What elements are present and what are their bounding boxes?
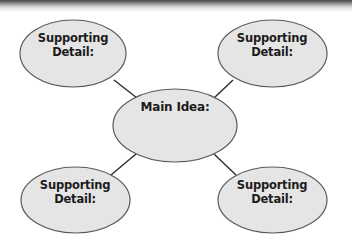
connector-top-right bbox=[214, 80, 233, 98]
connector-top-left bbox=[114, 80, 137, 98]
detail-label-line2: Detail: bbox=[25, 192, 125, 206]
detail-label-line2: Detail: bbox=[222, 45, 322, 59]
detail-label-top-left: Supporting Detail: bbox=[23, 31, 123, 59]
detail-label-line1: Supporting bbox=[23, 31, 123, 45]
connector-bottom-right bbox=[214, 154, 236, 175]
detail-label-line2: Detail: bbox=[222, 192, 322, 206]
detail-label-line1: Supporting bbox=[222, 31, 322, 45]
detail-label-bottom-right: Supporting Detail: bbox=[222, 178, 322, 206]
main-idea-text: Main Idea: bbox=[125, 100, 225, 114]
main-idea-label: Main Idea: bbox=[125, 100, 225, 114]
detail-label-line1: Supporting bbox=[222, 178, 322, 192]
detail-label-bottom-left: Supporting Detail: bbox=[25, 178, 125, 206]
detail-label-line1: Supporting bbox=[25, 178, 125, 192]
detail-label-top-right: Supporting Detail: bbox=[222, 31, 322, 59]
connector-bottom-left bbox=[111, 154, 136, 175]
detail-label-line2: Detail: bbox=[23, 45, 123, 59]
